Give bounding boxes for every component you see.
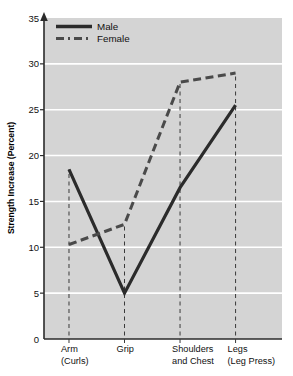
x-axis-category-label: Shoulders [172, 344, 214, 354]
x-axis-category-label: Arm [61, 344, 78, 354]
x-axis-category-label: (Curls) [61, 356, 89, 366]
legend-label-female: Female [97, 33, 130, 44]
y-axis-tick-label: 20 [28, 150, 39, 161]
y-axis-tick-label: 30 [28, 58, 39, 69]
y-axis-tick-label: 15 [28, 196, 39, 207]
chart-canvas: 05101520253035 Arm(Curls)GripShouldersan… [0, 0, 293, 376]
line-chart-svg: 05101520253035 Arm(Curls)GripShouldersan… [0, 0, 293, 376]
chart-container: 05101520253035 Arm(Curls)GripShouldersan… [0, 0, 293, 376]
x-axis-category-label: Grip [117, 344, 134, 354]
x-axis-category-label: Legs [228, 344, 248, 354]
x-axis-category-label: and Chest [172, 356, 214, 366]
y-axis-tick-label: 25 [28, 104, 39, 115]
y-axis-title: Strength Increase (Percent) [6, 122, 16, 234]
x-axis-category-labels: Arm(Curls)GripShouldersand ChestLegs(Leg… [61, 344, 275, 366]
y-axis-tick-label: 10 [28, 242, 39, 253]
y-axis-tick-labels: 05101520253035 [28, 13, 44, 345]
y-axis-tick-label: 5 [34, 288, 39, 299]
y-axis-arrow-icon [40, 12, 48, 21]
y-axis-tick-label: 35 [28, 13, 39, 24]
plot-background [44, 18, 282, 339]
legend-label-male: Male [97, 21, 119, 32]
x-axis-category-label: (Leg Press) [228, 356, 276, 366]
y-axis-tick-label: 0 [34, 334, 39, 345]
